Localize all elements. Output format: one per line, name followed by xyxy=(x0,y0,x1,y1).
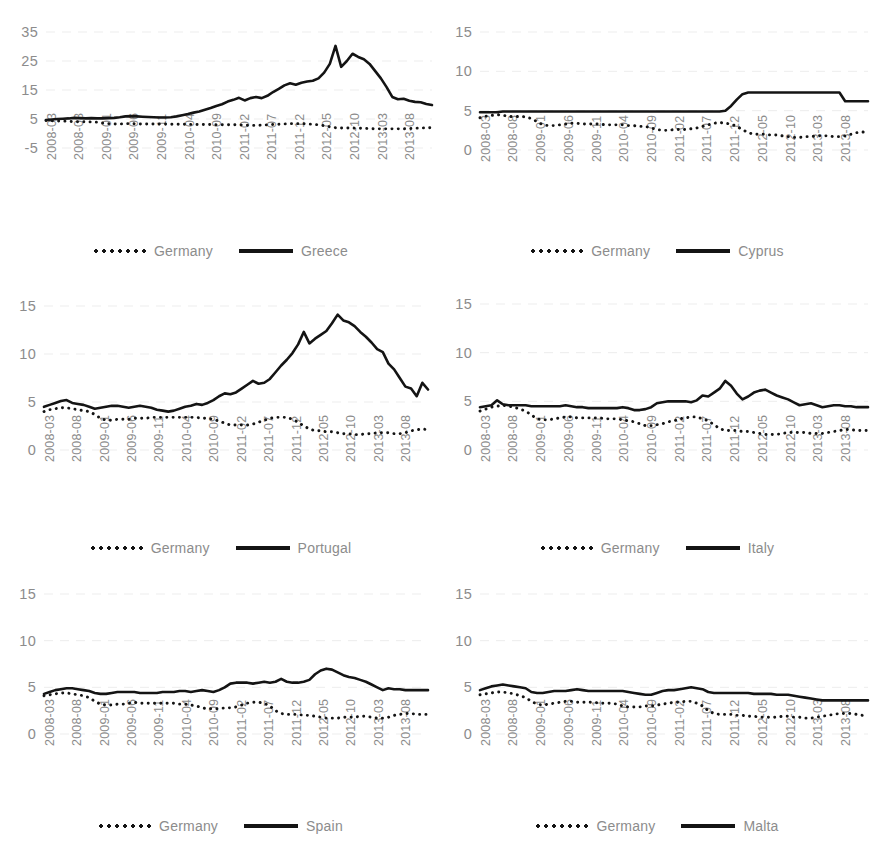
series-line-greece xyxy=(46,46,432,120)
x-axis-tick-label: 2012-05 xyxy=(320,113,334,160)
chart-panel-italy: 0510152008-032008-082009-012009-062009-1… xyxy=(440,290,873,580)
legend-entry-malta[interactable]: Malta xyxy=(681,818,778,834)
x-axis-tick-label: 2013-03 xyxy=(811,115,825,162)
x-axis-tick-label: 2009-06 xyxy=(125,699,139,746)
x-axis-tick-label: 2011-07 xyxy=(700,116,714,162)
x-axis-tick-label: 2013-08 xyxy=(839,415,853,462)
x-axis-tick-label: 2009-01 xyxy=(534,415,548,462)
x-axis-tick-label: 2013-08 xyxy=(839,699,853,746)
x-axis-tick-label: 2010-09 xyxy=(645,415,659,462)
legend-label: Greece xyxy=(301,243,348,259)
y-axis-tick-label: 5 xyxy=(28,394,36,410)
legend-entry-germany[interactable]: Germany xyxy=(534,818,655,834)
x-axis-tick-label: 2012-10 xyxy=(348,113,362,160)
chart-svg-italy: 0510152008-032008-082009-012009-062009-1… xyxy=(440,290,873,535)
y-axis-tick-label: -5 xyxy=(25,140,39,156)
legend-entry-portugal[interactable]: Portugal xyxy=(236,540,352,556)
y-axis-tick-label: 0 xyxy=(28,442,36,458)
x-axis-tick-label: 2011-07 xyxy=(265,114,279,160)
chart-panel-spain: 0510152008-032008-082009-012009-062009-1… xyxy=(0,580,440,867)
y-axis-tick-label: 35 xyxy=(21,24,38,40)
x-axis-tick-label: 2009-01 xyxy=(98,415,112,462)
x-axis-tick-label: 2011-02 xyxy=(673,116,687,162)
y-axis-tick-label: 5 xyxy=(30,111,38,127)
y-axis-tick-label: 15 xyxy=(455,296,472,312)
y-axis-tick-label: 15 xyxy=(19,586,36,602)
legend-entry-germany[interactable]: Germany xyxy=(539,540,660,556)
x-axis-tick-label: 2009-06 xyxy=(127,113,141,160)
x-axis-tick-label: 2009-06 xyxy=(125,415,139,462)
legend-label: Germany xyxy=(591,243,650,259)
y-axis-tick-label: 10 xyxy=(455,345,472,361)
x-axis-tick-label: 2011-12 xyxy=(290,700,304,746)
series-line-portugal xyxy=(44,315,428,412)
x-axis-tick-label: 2009-06 xyxy=(562,115,576,162)
x-axis-tick-label: 2011-02 xyxy=(673,416,687,462)
x-axis-tick-label: 2008-08 xyxy=(506,115,520,162)
legend-entry-germany[interactable]: Germany xyxy=(97,818,218,834)
legend-entry-italy[interactable]: Italy xyxy=(686,540,775,556)
x-axis-tick-label: 2013-03 xyxy=(811,415,825,462)
legend-label: Cyprus xyxy=(738,243,784,259)
chart-panel-cyprus: 0510152008-032008-082009-012009-062009-1… xyxy=(440,0,873,290)
x-axis-tick-label: 2009-11 xyxy=(152,416,166,462)
x-axis-tick-label: 2012-10 xyxy=(344,415,358,462)
x-axis-tick-label: 2012-10 xyxy=(784,699,798,746)
x-axis-tick-label: 2009-06 xyxy=(562,415,576,462)
x-axis-tick-label: 2009-06 xyxy=(562,699,576,746)
legend-entry-germany[interactable]: Germany xyxy=(92,243,213,259)
legend-label: Italy xyxy=(748,540,775,556)
x-axis-tick-label: 2011-12 xyxy=(728,116,742,162)
x-axis-tick-label: 2011-02 xyxy=(238,114,252,160)
x-axis-tick-label: 2013-08 xyxy=(839,115,853,162)
x-axis-tick-label: 2012-05 xyxy=(317,699,331,746)
chart-legend-greece: GermanyGreece xyxy=(0,243,440,259)
legend-entry-cyprus[interactable]: Cyprus xyxy=(676,243,784,259)
legend-entry-spain[interactable]: Spain xyxy=(244,818,343,834)
x-axis-tick-label: 2011-12 xyxy=(728,700,742,746)
chart-grid: -551525352008-032008-082009-012009-06200… xyxy=(0,0,873,867)
x-axis-tick-label: 2010-04 xyxy=(180,415,194,462)
solid-line-swatch-icon xyxy=(244,824,298,828)
x-axis-tick-label: 2011-07 xyxy=(262,416,276,462)
legend-entry-germany[interactable]: Germany xyxy=(89,540,210,556)
x-axis-tick-label: 2012-10 xyxy=(784,415,798,462)
x-axis-tick-label: 2012-10 xyxy=(344,699,358,746)
y-axis-tick-label: 0 xyxy=(28,726,36,742)
legend-label: Malta xyxy=(743,818,778,834)
x-axis-tick-label: 2011-07 xyxy=(262,700,276,746)
x-axis-tick-label: 2012-05 xyxy=(756,115,770,162)
x-axis-tick-label: 2009-11 xyxy=(590,116,604,162)
solid-line-swatch-icon xyxy=(681,824,735,828)
x-axis-tick-label: 2008-08 xyxy=(506,415,520,462)
x-axis-tick-label: 2013-08 xyxy=(399,699,413,746)
x-axis-tick-label: 2009-11 xyxy=(590,416,604,462)
x-axis-tick-label: 2008-08 xyxy=(70,699,84,746)
x-axis-tick-label: 2008-08 xyxy=(70,415,84,462)
legend-label: Germany xyxy=(154,243,213,259)
y-axis-tick-label: 15 xyxy=(19,298,36,314)
x-axis-tick-label: 2013-08 xyxy=(399,415,413,462)
x-axis-tick-label: 2008-08 xyxy=(506,699,520,746)
chart-svg-spain: 0510152008-032008-082009-012009-062009-1… xyxy=(0,580,440,822)
x-axis-tick-label: 2008-03 xyxy=(479,699,493,746)
solid-line-swatch-icon xyxy=(686,546,740,550)
legend-label: Germany xyxy=(159,818,218,834)
legend-label: Portugal xyxy=(298,540,352,556)
y-axis-tick-label: 0 xyxy=(464,726,472,742)
x-axis-tick-label: 2013-03 xyxy=(376,113,390,160)
y-axis-tick-label: 10 xyxy=(455,63,472,79)
x-axis-tick-label: 2008-03 xyxy=(479,115,493,162)
legend-entry-germany[interactable]: Germany xyxy=(529,243,650,259)
chart-legend-spain: GermanySpain xyxy=(0,818,440,834)
y-axis-tick-label: 10 xyxy=(19,633,36,649)
x-axis-tick-label: 2013-03 xyxy=(372,699,386,746)
chart-legend-italy: GermanyItaly xyxy=(440,540,873,556)
dotted-line-swatch-icon xyxy=(539,546,593,550)
legend-label: Germany xyxy=(601,540,660,556)
y-axis-tick-label: 15 xyxy=(455,586,472,602)
x-axis-tick-label: 2013-08 xyxy=(403,113,417,160)
x-axis-tick-label: 2012-05 xyxy=(317,415,331,462)
y-axis-tick-label: 10 xyxy=(19,346,36,362)
legend-entry-greece[interactable]: Greece xyxy=(239,243,348,259)
